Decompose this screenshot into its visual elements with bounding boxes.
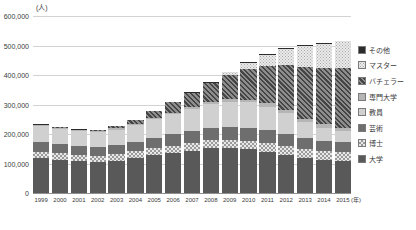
bar-segment-bachelor xyxy=(316,68,332,125)
legend-item-daigaku[interactable]: 大学 xyxy=(358,151,416,167)
bar-segment-hakase xyxy=(335,152,351,161)
legend-item-label: 教員 xyxy=(369,107,383,117)
x-axis-tick-label: 2012 xyxy=(278,195,294,209)
legend-item-kyouin[interactable]: 教員 xyxy=(358,104,416,120)
bar-segment-kyouin xyxy=(203,104,219,128)
legend-item-label: その他 xyxy=(369,45,390,55)
legend-item-bachelor[interactable]: バチェラー xyxy=(358,73,416,89)
bar-segment-kyouin xyxy=(146,119,162,137)
bar-segment-geijutsu xyxy=(222,127,238,140)
bar-segment-geijutsu xyxy=(165,134,181,145)
y-axis-tick-label: 100,000 xyxy=(4,160,29,167)
legend-swatch-icon xyxy=(358,155,366,163)
bar-column[interactable] xyxy=(222,16,238,193)
bar-segment-daigaku xyxy=(165,153,181,193)
bar-segment-daigaku xyxy=(203,148,219,193)
plot-area xyxy=(33,16,351,193)
bar-segment-hakase xyxy=(203,140,219,148)
bar-column[interactable] xyxy=(203,16,219,193)
bar-column[interactable] xyxy=(184,16,200,193)
bar-column[interactable] xyxy=(335,16,351,193)
x-axis-tick-label: 2013 xyxy=(297,195,313,209)
bar-column[interactable] xyxy=(146,16,162,193)
bar-segment-geijutsu xyxy=(33,142,49,152)
y-axis-tick-label: 600,000 xyxy=(4,13,29,20)
bar-segment-bachelor xyxy=(165,102,181,112)
bar-column[interactable] xyxy=(297,16,313,193)
y-axis-tick-label: 400,000 xyxy=(4,72,29,79)
legend-swatch-icon xyxy=(358,139,366,147)
legend-item-label: 芸術 xyxy=(369,123,383,133)
bar-segment-kyouin xyxy=(278,113,294,134)
bar-column[interactable] xyxy=(90,16,106,193)
legend-item-hakase[interactable]: 博士 xyxy=(358,136,416,152)
bar-segment-daigaku xyxy=(240,149,256,193)
legend-item-label: 専門大学 xyxy=(369,92,397,102)
bar-segment-geijutsu xyxy=(240,128,256,141)
bar-column[interactable] xyxy=(127,16,143,193)
bar-segment-bachelor xyxy=(297,67,313,119)
bar-segment-kyouin xyxy=(127,125,143,142)
bar-column[interactable] xyxy=(71,16,87,193)
stacked-bar-chart: (人) 600,000500,000400,000300,000200,0001… xyxy=(0,0,416,230)
bar-segment-kyouin xyxy=(240,102,256,127)
legend-swatch-icon xyxy=(358,124,366,132)
bar-segment-geijutsu xyxy=(127,142,143,152)
bar-column[interactable] xyxy=(108,16,124,193)
bar-segment-geijutsu xyxy=(278,134,294,146)
bar-segment-daigaku xyxy=(127,158,143,193)
legend-swatch-icon xyxy=(358,46,366,54)
x-axis-tick-label: 2005 xyxy=(146,195,162,209)
bar-segment-geijutsu xyxy=(203,128,219,141)
x-axis-tick-label: 2006 xyxy=(165,195,181,209)
bar-segment-bachelor xyxy=(335,68,351,128)
bar-segment-daigaku xyxy=(184,151,200,193)
bar-column[interactable] xyxy=(33,16,49,193)
bar-segment-hakase xyxy=(165,146,181,153)
chart-legend: その他マスターバチェラー専門大学教員芸術博士大学 xyxy=(358,42,416,167)
bar-segment-master xyxy=(259,55,275,66)
bar-segment-daigaku xyxy=(146,155,162,193)
bar-segment-kyouin xyxy=(335,131,351,142)
bar-segment-hakase xyxy=(146,148,162,155)
legend-item-label: バチェラー xyxy=(369,76,404,86)
bar-segment-geijutsu xyxy=(146,138,162,149)
bar-segment-geijutsu xyxy=(259,130,275,143)
axis-baseline xyxy=(33,193,351,194)
bar-segment-kyouin xyxy=(33,126,49,142)
y-axis-tick-labels: 600,000500,000400,000300,000200,000100,0… xyxy=(0,16,33,193)
bar-segment-geijutsu xyxy=(90,147,106,156)
bar-column[interactable] xyxy=(278,16,294,193)
bar-segment-kyouin xyxy=(90,132,106,146)
legend-item-master[interactable]: マスター xyxy=(358,58,416,74)
bar-segment-kyouin xyxy=(71,131,87,146)
x-axis-tick-label: 2004 xyxy=(127,195,143,209)
x-axis-tick-label: 2008 xyxy=(203,195,219,209)
y-axis-tick-label: 300,000 xyxy=(4,101,29,108)
bar-segment-bachelor xyxy=(203,83,219,102)
bar-segment-kyouin xyxy=(108,130,124,145)
legend-item-geijutsu[interactable]: 芸術 xyxy=(358,120,416,136)
legend-item-senmon[interactable]: 専門大学 xyxy=(358,89,416,105)
bar-segment-master xyxy=(297,46,313,67)
bar-segment-hakase xyxy=(316,151,332,160)
x-axis-tick-label: 2009 xyxy=(222,195,238,209)
legend-item-sonota[interactable]: その他 xyxy=(358,42,416,58)
bar-column[interactable] xyxy=(165,16,181,193)
bar-group xyxy=(33,16,351,193)
bar-segment-daigaku xyxy=(335,161,351,193)
bar-segment-hakase xyxy=(259,143,275,152)
bar-column[interactable] xyxy=(259,16,275,193)
bar-column[interactable] xyxy=(240,16,256,193)
bar-column[interactable] xyxy=(52,16,68,193)
bar-segment-daigaku xyxy=(222,148,238,193)
bar-segment-kyouin xyxy=(52,129,68,144)
bar-segment-bachelor xyxy=(240,69,256,99)
x-axis-tick-label: 2003 xyxy=(108,195,124,209)
bar-segment-master xyxy=(335,41,351,68)
legend-swatch-icon xyxy=(358,61,366,69)
bar-segment-daigaku xyxy=(297,158,313,193)
bar-segment-kyouin xyxy=(297,122,313,138)
bar-column[interactable] xyxy=(316,16,332,193)
bar-segment-bachelor xyxy=(222,75,238,99)
